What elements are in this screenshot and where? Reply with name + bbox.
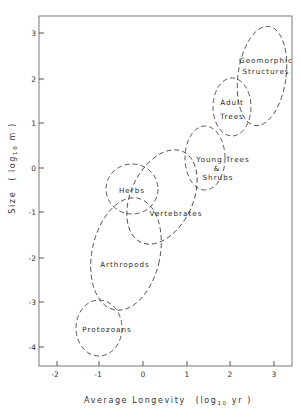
ellipse-adult-trees bbox=[213, 78, 251, 136]
label-adult: Adult bbox=[220, 98, 244, 107]
y-axis-label: Size( log10 m ) bbox=[8, 122, 18, 213]
label-vertebrates: Vertebrates bbox=[150, 209, 203, 218]
svg-text:-2: -2 bbox=[29, 254, 37, 263]
y-axis-tick-labels: 3 2 1 0 -1 -2 -3 -4 bbox=[29, 29, 37, 352]
chart: -2 -1 0 1 2 3 3 2 1 0 -1 -2 -3 -4 bbox=[0, 0, 301, 417]
region-labels: Protozoans Arthropods Herbs Vertebrates … bbox=[82, 56, 293, 334]
svg-text:0: 0 bbox=[141, 370, 146, 379]
svg-text:3: 3 bbox=[31, 29, 36, 38]
label-geomorphic: Geomorphic bbox=[239, 56, 293, 65]
label-herbs: Herbs bbox=[119, 186, 145, 195]
svg-text:2: 2 bbox=[228, 370, 233, 379]
svg-text:-4: -4 bbox=[29, 343, 37, 352]
svg-text:-1: -1 bbox=[94, 370, 102, 379]
svg-text:-1: -1 bbox=[29, 208, 37, 217]
label-trees: Trees bbox=[219, 112, 244, 121]
svg-text:1: 1 bbox=[185, 370, 190, 379]
x-axis-tick-labels: -2 -1 0 1 2 3 bbox=[51, 370, 276, 379]
label-structures: Structures bbox=[242, 67, 289, 76]
x-axis-label: Average Longevity(log10 yr ) bbox=[84, 396, 252, 406]
svg-text:1: 1 bbox=[31, 119, 36, 128]
svg-text:-2: -2 bbox=[51, 370, 59, 379]
label-arthropods: Arthropods bbox=[100, 260, 150, 269]
label-ampersand: & bbox=[214, 164, 221, 173]
x-axis-ticks bbox=[57, 361, 274, 366]
svg-text:2: 2 bbox=[31, 75, 36, 84]
label-young-trees: Young Trees bbox=[195, 155, 250, 164]
label-protozoans: Protozoans bbox=[82, 325, 132, 334]
svg-text:3: 3 bbox=[272, 370, 277, 379]
y-axis-ticks bbox=[39, 33, 44, 347]
svg-text:0: 0 bbox=[31, 164, 36, 173]
label-shrubs: Shrubs bbox=[203, 173, 234, 182]
svg-text:-3: -3 bbox=[29, 298, 37, 307]
